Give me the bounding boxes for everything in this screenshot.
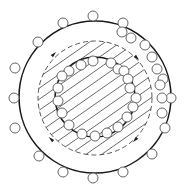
conductor-circle — [88, 56, 98, 66]
arrow-icon — [132, 137, 139, 144]
conductor-circle — [9, 93, 19, 103]
conductor-circle — [147, 149, 157, 159]
conductor-circle — [64, 120, 74, 130]
conductor-circle — [166, 93, 176, 103]
conductor-circle — [88, 11, 98, 21]
rotor-stator-diagram — [0, 0, 187, 192]
conductor-circle — [155, 80, 165, 90]
conductor-circle — [34, 151, 44, 161]
conductor-circle — [118, 18, 128, 28]
conductor-circle — [131, 93, 141, 103]
conductor-circle — [88, 173, 98, 183]
conductor-circle — [90, 131, 100, 141]
conductor-circle — [76, 60, 86, 70]
conductor-circle — [123, 74, 133, 84]
conductor-circle — [77, 129, 87, 139]
conductor-circle — [57, 108, 67, 118]
inner-conductor-circles — [53, 56, 141, 141]
conductor-circle — [140, 40, 150, 50]
arrow-icon — [134, 55, 141, 62]
conductor-circle — [53, 96, 63, 106]
conductor-circle — [57, 71, 67, 81]
conductor-circle — [102, 128, 112, 138]
conductor-circle — [118, 167, 128, 177]
outer-conductor-circles — [9, 11, 176, 183]
conductor-circle — [157, 108, 167, 118]
conductor-circle — [58, 167, 68, 177]
conductor-circle — [160, 123, 170, 133]
conductor-circle — [125, 83, 135, 93]
conductor-circle — [152, 64, 162, 74]
conductor-circle — [53, 83, 63, 93]
conductor-circle — [117, 27, 127, 37]
conductor-circle — [113, 122, 123, 132]
conductor-circle — [122, 112, 132, 122]
conductor-circle — [10, 123, 20, 133]
conductor-circle — [10, 63, 20, 73]
conductor-circle — [147, 52, 157, 62]
conductor-circle — [58, 18, 68, 28]
conductor-circle — [128, 102, 138, 112]
conductor-circle — [33, 37, 43, 47]
conductor-circle — [126, 33, 136, 43]
conductor-circle — [157, 93, 167, 103]
